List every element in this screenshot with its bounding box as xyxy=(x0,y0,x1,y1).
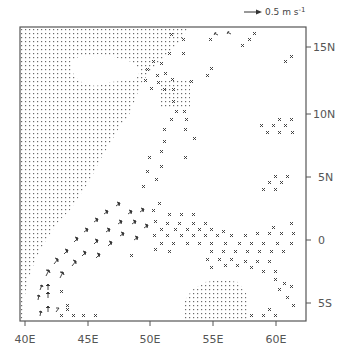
x-axis-labels: 40E 45E 50E 55E 60E xyxy=(15,333,287,346)
vector-group-east xyxy=(260,118,294,191)
vector-map-figure: 0.5 m s-1 xyxy=(0,0,346,363)
map-area xyxy=(20,27,295,321)
y-tick-5s: 5S xyxy=(318,297,332,310)
y-axis xyxy=(306,47,311,303)
reference-vector-label: 0.5 m s-1 xyxy=(265,6,305,17)
x-axis xyxy=(25,321,276,326)
reference-arrowhead-icon xyxy=(256,10,262,15)
x-tick-40e: 40E xyxy=(15,333,36,346)
y-tick-10n: 10N xyxy=(313,108,335,121)
x-tick-45e: 45E xyxy=(78,333,99,346)
vector-group-northeast xyxy=(206,31,293,77)
x-tick-60e: 60E xyxy=(266,333,287,346)
y-tick-5n: 5N xyxy=(318,171,333,184)
reference-vector-legend: 0.5 m s-1 xyxy=(244,6,305,17)
y-tick-0: 0 xyxy=(318,234,325,247)
x-tick-55e: 55E xyxy=(203,333,224,346)
y-tick-15n: 15N xyxy=(313,41,335,54)
y-axis-labels: 15N 10N 5N 0 5S xyxy=(313,41,335,310)
vector-group-south xyxy=(60,308,97,317)
missing-data-patch-north xyxy=(160,81,190,109)
x-tick-50e: 50E xyxy=(140,333,161,346)
missing-data-patch-south xyxy=(185,280,248,321)
